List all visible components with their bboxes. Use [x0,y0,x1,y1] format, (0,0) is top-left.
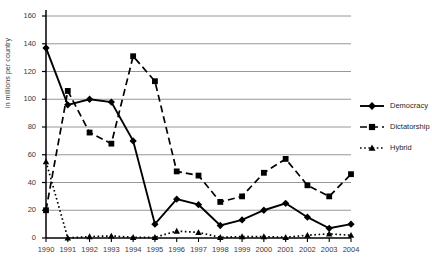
legend-item-dictatorship[interactable]: Dictatorship [390,122,430,131]
data-point-marker [217,199,223,205]
gridlines [46,16,351,210]
data-point-marker [86,96,93,103]
data-point-marker [65,88,71,94]
y-tick-label: 0 [10,233,36,242]
data-point-marker [174,169,180,175]
data-point-marker [369,124,375,130]
plot-area [0,0,432,270]
data-point-marker [283,156,289,162]
data-point-marker [108,141,114,147]
x-tick-label: 2004 [336,245,366,254]
y-tick-label: 40 [10,178,36,187]
data-point-marker [239,193,245,199]
data-point-marker [86,233,93,239]
data-point-marker [304,232,311,238]
data-point-marker [282,234,289,240]
data-point-marker [129,137,136,144]
y-tick-label: 60 [10,150,36,159]
y-tick-label: 20 [10,205,36,214]
y-tick-label: 80 [10,122,36,131]
data-point-marker [260,207,267,214]
data-point-marker [368,102,376,110]
data-point-marker [261,170,267,176]
data-series-layer [42,44,354,240]
data-point-marker [87,130,93,136]
legend-glyphs [360,102,384,151]
series-dictatorship [43,53,354,213]
y-tick-label: 100 [10,94,36,103]
legend-item-democracy[interactable]: Democracy [390,101,428,110]
legend-item-hybrid[interactable]: Hybrid [390,143,412,152]
data-point-marker [152,78,158,84]
data-point-marker [261,233,268,239]
data-point-marker [195,229,202,235]
series-hybrid [43,158,355,240]
data-point-marker [238,216,245,223]
data-point-marker [43,158,50,164]
data-point-marker [130,53,136,59]
data-point-marker [108,233,115,239]
series-democracy [42,44,354,232]
y-tick-label: 120 [10,67,36,76]
data-point-marker [347,220,354,227]
y-tick-label: 160 [10,11,36,20]
axis-ticks [42,16,351,242]
data-point-marker [348,171,354,177]
data-point-marker [305,182,311,188]
data-point-marker [42,44,49,51]
data-point-marker [173,228,180,234]
line-chart: in millions per country 0204060801001201… [0,0,432,270]
data-point-marker [326,193,332,199]
y-tick-label: 140 [10,39,36,48]
data-point-marker [196,173,202,179]
data-point-marker [43,207,49,213]
